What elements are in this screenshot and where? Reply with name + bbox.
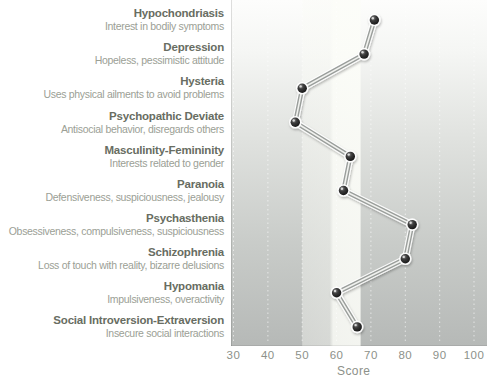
mmpi-profile-figure: HypochondriasisInterest in bodily sympto… <box>0 0 498 385</box>
scale-name: Hysteria <box>180 75 224 88</box>
scale-description: Hopeless, pessimistic attitude <box>95 54 224 67</box>
scale-description: Impulsiveness, overactivity <box>107 293 224 306</box>
x-tick-label-50: 50 <box>284 349 320 361</box>
scale-row-schizophrenia: SchizophreniaLoss of touch with reality,… <box>0 242 224 276</box>
scale-description: Loss of touch with reality, bizarre delu… <box>38 259 224 272</box>
scale-description: Interest in bodily symptoms <box>105 20 224 33</box>
scale-description: Defensiveness, suspiciousness, jealousy <box>45 191 224 204</box>
scale-row-psychasthenia: PsychastheniaObsessiveness, compulsivene… <box>0 208 224 242</box>
data-point-psychopathic-deviate <box>289 116 302 129</box>
scale-description: Obsessiveness, compulsiveness, suspiciou… <box>9 225 224 238</box>
scale-row-paranoia: ParanoiaDefensiveness, suspiciousness, j… <box>0 174 224 208</box>
x-tick-label-60: 60 <box>319 349 355 361</box>
data-point-psychasthenia <box>406 218 419 231</box>
data-point-paranoia <box>337 184 350 197</box>
x-tick-label-30: 30 <box>216 349 252 361</box>
x-tick-label-90: 90 <box>422 349 458 361</box>
data-point-schizophrenia <box>399 252 412 265</box>
scale-name: Schizophrenia <box>148 246 224 259</box>
scale-name: Psychasthenia <box>146 212 224 225</box>
x-tick-label-40: 40 <box>250 349 286 361</box>
scale-description: Insecure social interactions <box>106 327 224 340</box>
scale-name: Masculinity-Femininity <box>104 144 224 157</box>
scale-name: Social Introversion-Extraversion <box>53 314 224 327</box>
data-point-depression <box>358 48 371 61</box>
scale-description: Interests related to gender <box>110 157 224 170</box>
scale-name: Hypochondriasis <box>134 7 224 20</box>
scale-labels-column: HypochondriasisInterest in bodily sympto… <box>0 0 229 346</box>
data-point-social-introversion-extraversion <box>351 321 364 334</box>
plot-area <box>231 0 487 346</box>
scale-name: Psychopathic Deviate <box>109 110 224 123</box>
x-tick-label-80: 80 <box>387 349 423 361</box>
scale-row-masculinity-femininity: Masculinity-FemininityInterests related … <box>0 139 224 173</box>
scale-row-social-introversion-extraversion: Social Introversion-ExtraversionInsecure… <box>0 310 224 344</box>
scale-description: Uses physical ailments to avoid problems <box>43 88 224 101</box>
scale-row-hysteria: HysteriaUses physical ailments to avoid … <box>0 71 224 105</box>
scale-row-psychopathic-deviate: Psychopathic DeviateAntisocial behavior,… <box>0 105 224 139</box>
x-axis-title: Score <box>314 364 394 378</box>
scale-name: Hypomania <box>164 280 224 293</box>
data-point-hypochondriasis <box>368 14 381 27</box>
data-point-masculinity-femininity <box>344 150 357 163</box>
scale-name: Paranoia <box>177 178 224 191</box>
scale-row-hypochondriasis: HypochondriasisInterest in bodily sympto… <box>0 3 224 37</box>
scale-name: Depression <box>163 41 224 54</box>
profile-line-chart <box>231 0 487 346</box>
data-point-hypomania <box>330 287 343 300</box>
scale-description: Antisocial behavior, disregards others <box>61 123 224 136</box>
x-tick-label-100: 100 <box>456 349 492 361</box>
scale-row-depression: DepressionHopeless, pessimistic attitude <box>0 37 224 71</box>
scale-row-hypomania: HypomaniaImpulsiveness, overactivity <box>0 276 224 310</box>
x-tick-label-70: 70 <box>353 349 389 361</box>
data-point-hysteria <box>296 82 309 95</box>
